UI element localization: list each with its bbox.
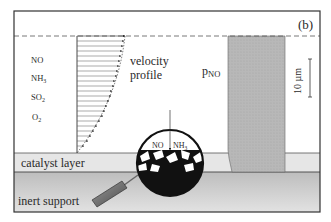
species-label-no: NO [31,55,43,65]
panel-label: (b) [298,17,313,32]
velocity-profile-label: velocity [130,54,169,68]
pressure-no-label: pNO [202,64,220,79]
scale-bar-label: 10 µm [292,68,303,94]
species-label-o2: O2 [32,112,41,123]
pno-concentration-column [228,36,285,172]
scale-bar [308,59,312,97]
inert-support-label: inert support [18,194,80,208]
species-label-nh3: NH3 [31,73,46,84]
catalyst-layer-label: catalyst layer [21,156,85,170]
diagram-canvas: (b) NO NH3 SO2 O2 velocity profile pNO 1… [0,0,331,222]
magnifier-no-label: NO [152,141,164,150]
velocity-profile-label-2: profile [130,68,162,82]
velocity-profile-arrows [77,36,125,153]
species-label-so2: SO2 [31,92,45,103]
